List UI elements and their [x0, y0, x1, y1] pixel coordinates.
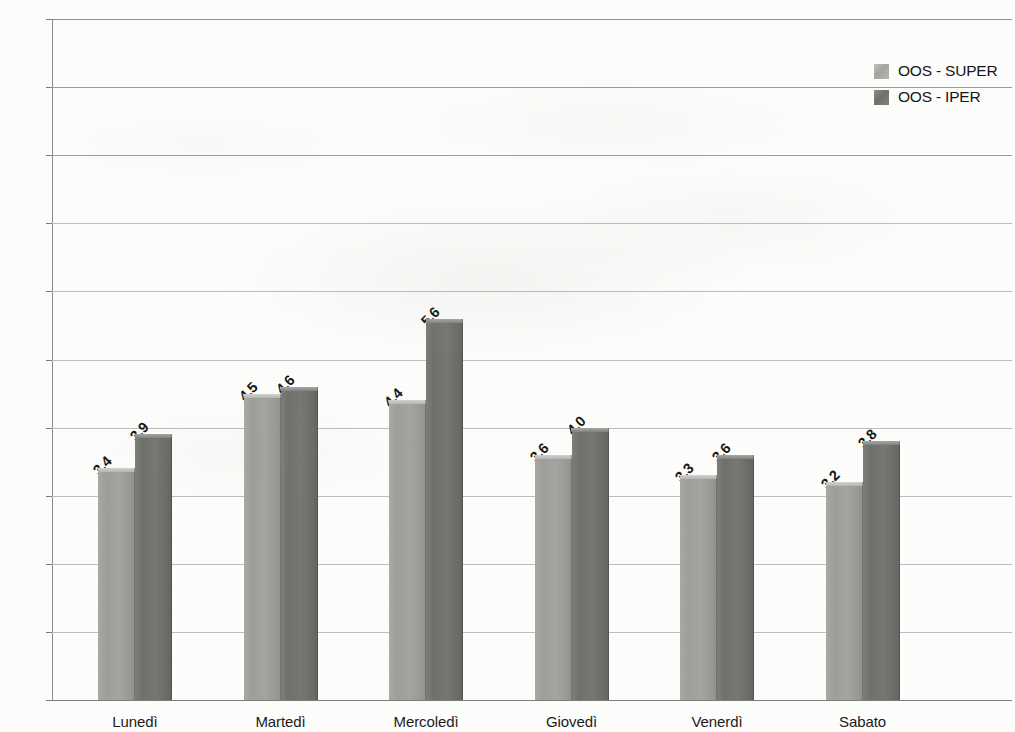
bar — [826, 482, 863, 700]
bar — [572, 428, 609, 700]
bar-edge — [317, 387, 318, 700]
bar-edge — [608, 428, 609, 700]
x-axis-category-label: Venerdì — [637, 713, 797, 730]
bar-group — [826, 19, 900, 700]
bar — [135, 434, 172, 700]
bar-top-highlight — [863, 441, 900, 445]
bar-body — [244, 397, 281, 700]
y-axis-tick — [46, 428, 52, 429]
bar-body — [281, 390, 318, 700]
legend-item-label: OOS - SUPER — [898, 62, 997, 80]
bar — [717, 455, 754, 700]
bar — [98, 468, 135, 700]
y-axis-tick — [46, 19, 52, 20]
bar-top-highlight — [244, 394, 281, 398]
bar-body — [863, 444, 900, 700]
bar-top-highlight — [680, 475, 717, 479]
x-axis-category-label: Giovedì — [492, 713, 652, 730]
bar-edge — [171, 434, 172, 700]
bar-group — [535, 19, 609, 700]
bar — [281, 387, 318, 700]
bar-top-highlight — [98, 468, 135, 472]
bar — [389, 400, 426, 700]
y-axis-tick — [46, 632, 52, 633]
y-axis-tick — [46, 360, 52, 361]
bar-top-highlight — [572, 428, 609, 432]
bar-top-highlight — [426, 319, 463, 323]
bar-top-highlight — [717, 455, 754, 459]
y-axis-tick — [46, 496, 52, 497]
bar-top-highlight — [535, 455, 572, 459]
x-axis-category-label: Martedì — [201, 713, 361, 730]
legend-swatch-icon — [874, 64, 889, 79]
bar-edge — [462, 319, 463, 700]
bar-top-highlight — [826, 482, 863, 486]
legend-item-label: OOS - IPER — [898, 88, 980, 106]
y-axis-tick — [46, 291, 52, 292]
bar-top-highlight — [135, 434, 172, 438]
y-axis-tick — [46, 87, 52, 88]
bar-group — [244, 19, 318, 700]
y-axis-tick — [46, 564, 52, 565]
bar-body — [717, 458, 754, 700]
bar-body — [826, 485, 863, 700]
y-axis-labels: 0%1%2%3%4%5%6%7%8%9%10% — [0, 19, 46, 700]
x-axis-category-label: Mercoledì — [346, 713, 506, 730]
bar-body — [535, 458, 572, 700]
bar-body — [389, 403, 426, 700]
y-axis-tick — [46, 223, 52, 224]
bar — [244, 394, 281, 700]
chart-page: 0%1%2%3%4%5%6%7%8%9%10% 3,43,94,54,64,45… — [0, 0, 1015, 732]
bar-body — [135, 437, 172, 700]
bar — [680, 475, 717, 700]
bar-top-highlight — [281, 387, 318, 391]
chart-legend: OOS - SUPEROOS - IPER — [874, 58, 997, 110]
legend-swatch-icon — [874, 90, 889, 105]
y-axis-tick — [46, 155, 52, 156]
x-axis-category-label: Sabato — [783, 713, 943, 730]
y-axis-tick — [46, 700, 52, 701]
legend-item[interactable]: OOS - SUPER — [874, 58, 997, 84]
bar-top-highlight — [389, 400, 426, 404]
bar — [426, 319, 463, 700]
plot-area: 3,43,94,54,64,45,63,64,03,33,63,23,8 Lun… — [52, 19, 1012, 700]
bar — [863, 441, 900, 700]
bar-group — [98, 19, 172, 700]
bar-group — [389, 19, 463, 700]
bar-edge — [899, 441, 900, 700]
bar-body — [572, 431, 609, 700]
bar-body — [98, 471, 135, 700]
legend-item[interactable]: OOS - IPER — [874, 84, 997, 110]
bar-edge — [753, 455, 754, 700]
bar — [535, 455, 572, 700]
bar-group — [680, 19, 754, 700]
x-axis-line — [46, 700, 1012, 701]
x-axis-category-label: Lunedì — [55, 713, 215, 730]
bar-body — [426, 322, 463, 700]
bar-body — [680, 478, 717, 700]
